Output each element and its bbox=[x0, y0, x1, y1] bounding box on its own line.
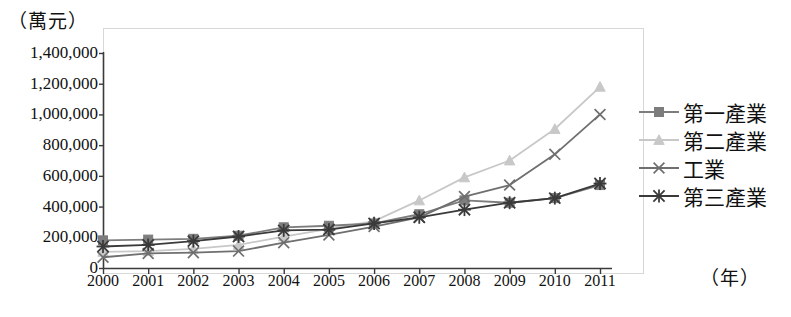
triangle-marker-icon bbox=[504, 155, 514, 165]
asterisk-marker-icon bbox=[637, 187, 681, 205]
x-marker-icon bbox=[637, 159, 681, 177]
line-chart: （萬元） （年） 0200,000400,000600,000800,0001,… bbox=[0, 0, 791, 317]
square-marker-icon bbox=[655, 107, 664, 116]
triangle-marker-icon bbox=[595, 82, 605, 92]
asterisk-marker-icon bbox=[187, 235, 200, 248]
series-line bbox=[103, 184, 600, 247]
legend-item[interactable]: 第二產業 bbox=[637, 126, 767, 153]
asterisk-marker-icon bbox=[458, 203, 471, 216]
plot-frame bbox=[104, 29, 644, 274]
asterisk-marker-icon bbox=[232, 230, 245, 243]
asterisk-marker-icon bbox=[142, 239, 155, 252]
legend-item-label: 工業 bbox=[681, 153, 725, 183]
x-axis-tick-label: 2000 bbox=[87, 272, 119, 290]
legend-item[interactable]: 工業 bbox=[637, 154, 767, 181]
asterisk-marker-icon bbox=[368, 217, 381, 230]
legend-symbol bbox=[637, 159, 681, 177]
legend-item-label: 第二產業 bbox=[681, 125, 767, 155]
series-line bbox=[103, 185, 600, 240]
triangle-marker-icon bbox=[637, 131, 681, 149]
x-marker-icon bbox=[549, 149, 560, 160]
legend-item-label: 第三產業 bbox=[681, 181, 767, 211]
legend-symbol bbox=[637, 187, 681, 205]
x-axis-tick-label: 2011 bbox=[584, 272, 615, 290]
x-axis-tick-label: 2005 bbox=[313, 272, 345, 290]
x-axis-tick-label: 2001 bbox=[132, 272, 164, 290]
series-asterisk bbox=[97, 177, 607, 253]
x-marker-icon bbox=[595, 109, 606, 120]
asterisk-marker-icon bbox=[653, 189, 666, 202]
x-axis-tick-label: 2006 bbox=[358, 272, 390, 290]
asterisk-marker-icon bbox=[413, 211, 426, 224]
legend-symbol bbox=[637, 103, 681, 121]
legend-symbol bbox=[637, 131, 681, 149]
asterisk-marker-icon bbox=[594, 177, 607, 190]
asterisk-marker-icon bbox=[503, 196, 516, 209]
triangle-marker-icon bbox=[459, 172, 469, 182]
triangle-marker-icon bbox=[414, 195, 424, 205]
x-axis-tick-label: 2002 bbox=[177, 272, 209, 290]
x-axis-tick-label: 2010 bbox=[539, 272, 571, 290]
series-square bbox=[99, 181, 605, 245]
square-marker-icon bbox=[637, 103, 681, 121]
x-axis-tick-label: 2009 bbox=[494, 272, 526, 290]
x-axis-tick-label: 2007 bbox=[403, 272, 435, 290]
x-axis-tick-label: 2004 bbox=[268, 272, 300, 290]
x-axis-tick-label: 2003 bbox=[223, 272, 255, 290]
legend-item[interactable]: 第三產業 bbox=[637, 182, 767, 209]
asterisk-marker-icon bbox=[97, 240, 110, 253]
series-line bbox=[103, 114, 600, 257]
legend-item[interactable]: 第一產業 bbox=[637, 98, 767, 125]
asterisk-marker-icon bbox=[322, 223, 335, 236]
chart-legend: 第一產業第二產業工業第三產業 bbox=[637, 98, 767, 209]
asterisk-marker-icon bbox=[277, 224, 290, 237]
legend-item-label: 第一產業 bbox=[681, 97, 767, 127]
x-axis-tick-label: 2008 bbox=[448, 272, 480, 290]
asterisk-marker-icon bbox=[548, 192, 561, 205]
x-marker-icon bbox=[504, 180, 515, 191]
